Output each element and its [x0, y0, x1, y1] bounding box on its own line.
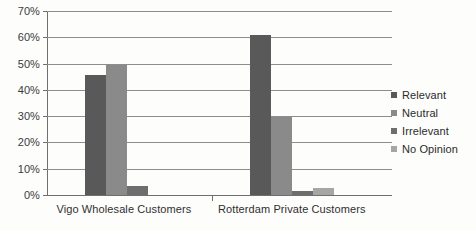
- y-axis-tick-label: 60%: [0, 31, 40, 43]
- legend-label: Relevant: [402, 89, 446, 101]
- y-axis-tick: [43, 11, 47, 12]
- legend-swatch-icon: [391, 128, 397, 134]
- y-axis-tick: [43, 169, 47, 170]
- legend-label: Irrelevant: [402, 125, 449, 137]
- bar-group: [85, 11, 169, 195]
- y-axis-tick: [43, 90, 47, 91]
- bar: [127, 186, 148, 195]
- y-axis-tick: [43, 195, 47, 196]
- chart-legend: RelevantNeutralIrrelevantNo Opinion: [391, 86, 475, 158]
- y-axis-tick-label: 10%: [0, 163, 40, 175]
- legend-item[interactable]: Neutral: [391, 104, 475, 122]
- y-axis-tick-label: 20%: [0, 136, 40, 148]
- legend-swatch-icon: [391, 146, 397, 152]
- y-axis-tick: [43, 142, 47, 143]
- y-axis-tick: [43, 64, 47, 65]
- bar: [106, 65, 127, 195]
- y-axis-tick-label: 40%: [0, 84, 40, 96]
- bar-group: [250, 11, 334, 195]
- legend-swatch-icon: [391, 92, 397, 98]
- x-axis-tick: [212, 196, 213, 201]
- legend-item[interactable]: Relevant: [391, 86, 475, 104]
- plot-area: [47, 11, 392, 196]
- bar: [271, 117, 292, 195]
- chart-screenshot: 70%60%50%40%30%20%10%0% Vigo Wholesale C…: [0, 0, 476, 231]
- legend-label: No Opinion: [402, 143, 458, 155]
- x-axis-category-label: Vigo Wholesale Customers: [57, 203, 192, 215]
- legend-item[interactable]: Irrelevant: [391, 122, 475, 140]
- y-axis-tick: [43, 116, 47, 117]
- y-axis-tick-label: 30%: [0, 110, 40, 122]
- legend-swatch-icon: [391, 110, 397, 116]
- legend-item[interactable]: No Opinion: [391, 140, 475, 158]
- bar: [250, 35, 271, 195]
- bar: [85, 75, 106, 195]
- y-axis-tick-label: 0%: [0, 189, 40, 201]
- y-axis-tick-label: 70%: [0, 5, 40, 17]
- x-axis-line: [47, 195, 392, 196]
- bar: [292, 191, 313, 195]
- x-axis-category-label: Rotterdam Private Customers: [218, 203, 366, 215]
- bar: [313, 188, 334, 195]
- y-axis-tick: [43, 37, 47, 38]
- legend-label: Neutral: [402, 107, 438, 119]
- y-axis-tick-label: 50%: [0, 58, 40, 70]
